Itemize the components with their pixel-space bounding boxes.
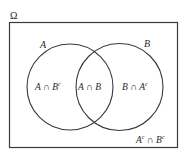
region-a-only-sup: c bbox=[58, 81, 61, 87]
region-a-only-base: A ∩ B bbox=[34, 82, 58, 92]
region-b-only-sup: c bbox=[145, 81, 148, 87]
region-b-only-base: B ∩ A bbox=[122, 82, 145, 92]
universe-label: Ω bbox=[10, 10, 17, 21]
region-a-only-label: A ∩ Bc bbox=[34, 81, 61, 92]
set-a-label: A bbox=[39, 39, 47, 50]
region-neither-mid: ∩ B bbox=[144, 135, 162, 145]
region-a-and-b-label: A ∩ B bbox=[77, 82, 101, 92]
set-b-label: B bbox=[144, 38, 150, 49]
region-b-only-label: B ∩ Ac bbox=[122, 81, 148, 92]
region-neither-label: Ac ∩ Bc bbox=[135, 134, 165, 145]
venn-diagram: Ω A B A ∩ Bc A ∩ B B ∩ Ac Ac ∩ Bc bbox=[0, 0, 189, 156]
region-neither-sup2: c bbox=[162, 134, 165, 140]
